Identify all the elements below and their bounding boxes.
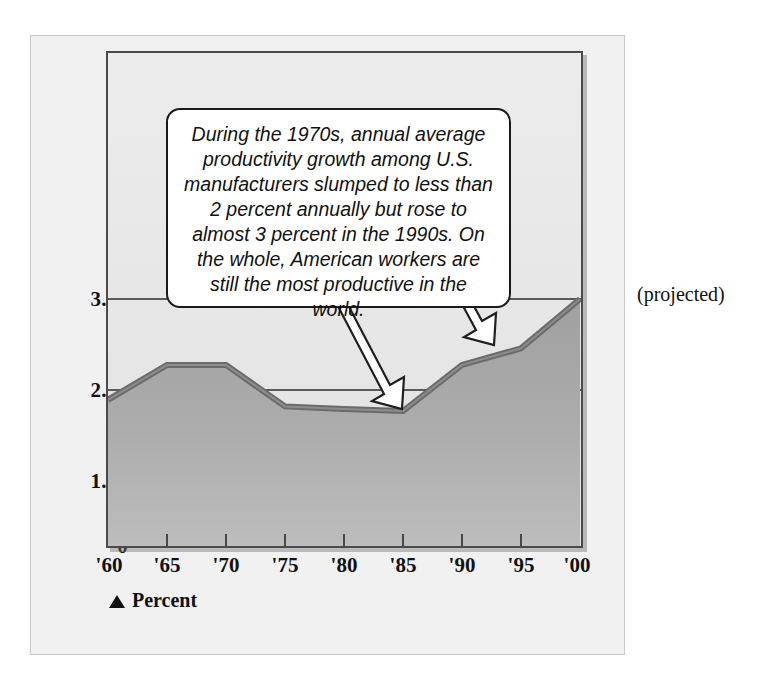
x-tick-label-00: '00: [564, 553, 591, 578]
triangle-up-icon: [109, 595, 125, 608]
projected-note: (projected): [637, 283, 725, 306]
x-axis-labels: '60 '65 '70 '75 '80 '85 '90 '95 '00: [106, 553, 583, 587]
x-tick-label-60: '60: [96, 553, 123, 578]
x-tick-label-70: '70: [213, 553, 240, 578]
x-tick-label-85: '85: [390, 553, 417, 578]
x-tick-label-65: '65: [154, 553, 181, 578]
callout-textbox: During the 1970s, annual average product…: [166, 108, 511, 308]
axis-caption-label: Percent: [132, 589, 197, 611]
axis-caption: Percent: [109, 589, 197, 612]
chart-figure: 3.75 2.50 1.25 0: [30, 35, 625, 655]
x-tick-label-95: '95: [508, 553, 535, 578]
x-tick-label-90: '90: [449, 553, 476, 578]
x-tick-label-75: '75: [272, 553, 299, 578]
x-tick-label-80: '80: [331, 553, 358, 578]
callout-text: During the 1970s, annual average product…: [184, 123, 493, 320]
